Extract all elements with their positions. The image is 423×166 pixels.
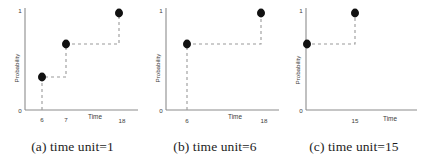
figure-panel-row: 1 0 Probability 6 7 Time 18	[0, 0, 423, 166]
x-axis-title-a: Time	[88, 113, 102, 120]
x-tick-label-a-7: 7	[64, 116, 68, 123]
x-tick-label-a-6: 6	[40, 116, 44, 123]
data-point-c-2	[351, 9, 359, 18]
chart-svg-c: 1 0 Probability 15 Time	[285, 0, 423, 138]
chart-panel-b: 1 0 Probability 6 Time 18 (b) time unit=…	[145, 0, 285, 166]
plot-area-c: 1 0 Probability 15 Time	[285, 0, 423, 138]
panel-caption-b: (b) time unit=6	[145, 139, 285, 155]
x-tick-label-b-18: 18	[261, 117, 268, 124]
y-tick-label-c-0: 0	[299, 107, 303, 114]
step-path-a	[42, 13, 119, 110]
y-tick-label-c-1: 1	[299, 7, 303, 14]
chart-svg-a: 1 0 Probability 6 7 Time 18	[0, 0, 145, 138]
x-axis-title-b: Time	[228, 113, 242, 120]
step-path-c	[306, 13, 355, 44]
data-point-a-2	[62, 40, 70, 49]
step-path-b	[187, 13, 261, 110]
data-point-b-2	[257, 9, 265, 18]
data-point-a-3	[115, 9, 123, 18]
y-tick-label-b-1: 1	[159, 7, 163, 14]
y-axis-title-a: Probability	[13, 53, 20, 83]
data-point-a-1	[38, 73, 46, 82]
panel-caption-a: (a) time unit=1	[0, 139, 145, 155]
plot-area-b: 1 0 Probability 6 Time 18	[145, 0, 285, 138]
x-tick-label-c-15: 15	[352, 117, 359, 124]
y-axis-title-c: Probability	[294, 55, 301, 85]
y-tick-label-a-1: 1	[18, 7, 22, 14]
chart-svg-b: 1 0 Probability 6 Time 18	[145, 0, 285, 138]
plot-area-a: 1 0 Probability 6 7 Time 18	[0, 0, 145, 138]
panel-caption-c: (c) time unit=15	[285, 139, 423, 155]
y-tick-label-b-0: 0	[159, 107, 163, 114]
chart-panel-c: 1 0 Probability 15 Time (c) time unit=15	[285, 0, 423, 166]
x-axis-title-c: Time	[383, 115, 397, 122]
chart-panel-a: 1 0 Probability 6 7 Time 18	[0, 0, 145, 166]
data-point-c-1	[303, 40, 311, 49]
y-tick-label-a-0: 0	[18, 107, 22, 114]
x-tick-label-b-6: 6	[185, 117, 189, 124]
x-tick-label-a-18: 18	[119, 117, 126, 124]
y-axis-title-b: Probability	[154, 53, 161, 83]
data-point-b-1	[183, 40, 191, 49]
